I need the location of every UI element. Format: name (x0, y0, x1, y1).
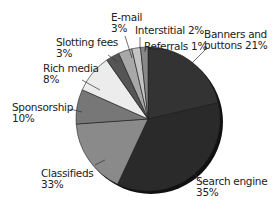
label-banners: Banners and buttons 21% (204, 29, 267, 51)
pie-chart: Banners and buttons 21% Search engine 35… (0, 0, 278, 213)
label-rich-media: Rich media 8% (43, 63, 99, 85)
label-interstitial: Interstitial 2% (135, 25, 204, 36)
label-sponsorship: Sponsorship 10% (12, 102, 73, 124)
label-classifieds: Classifieds 33% (41, 168, 93, 190)
label-slotting-fees: Slotting fees 3% (56, 37, 118, 59)
label-referrals: Referrals 1% (144, 41, 207, 52)
label-search-engine: Search engine 35% (196, 176, 267, 198)
